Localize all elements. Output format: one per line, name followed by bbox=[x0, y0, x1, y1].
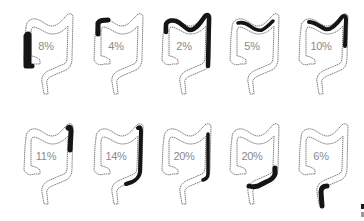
colon-outline-icon bbox=[218, 6, 284, 98]
colon-outline-icon bbox=[218, 116, 284, 208]
colon-outline-icon bbox=[82, 6, 148, 98]
percentage-label: 10% bbox=[305, 40, 337, 52]
colon-outline-icon bbox=[12, 6, 78, 98]
colon-diagram-9: 20% bbox=[218, 116, 284, 208]
percentage-label: 2% bbox=[168, 40, 200, 52]
colon-diagram-2: 4% bbox=[82, 6, 148, 98]
percentage-label: 20% bbox=[168, 150, 200, 162]
colon-diagram-5: 10% bbox=[287, 6, 353, 98]
colon-outline-icon bbox=[82, 116, 148, 208]
colon-outline-icon bbox=[12, 116, 78, 208]
colon-outline-icon bbox=[150, 6, 216, 98]
colon-diagram-8: 20% bbox=[150, 116, 216, 208]
colon-diagram-10: 6% bbox=[287, 116, 353, 208]
percentage-label: 20% bbox=[236, 150, 268, 162]
percentage-label: 6% bbox=[305, 150, 337, 162]
percentage-label: 11% bbox=[30, 150, 62, 162]
percentage-label: 5% bbox=[236, 40, 268, 52]
colon-diagram-3: 2% bbox=[150, 6, 216, 98]
percentage-label: 14% bbox=[100, 150, 132, 162]
colon-diagram-7: 14% bbox=[82, 116, 148, 208]
colon-outline-icon bbox=[150, 116, 216, 208]
percentage-label: 4% bbox=[100, 40, 132, 52]
colon-diagram-1: 8% bbox=[12, 6, 78, 98]
colon-outline-icon bbox=[287, 6, 353, 98]
percentage-label: 8% bbox=[30, 40, 62, 52]
colon-diagram-6: 11% bbox=[12, 116, 78, 208]
colon-diagram-4: 5% bbox=[218, 6, 284, 98]
colon-outline-icon bbox=[287, 116, 353, 208]
